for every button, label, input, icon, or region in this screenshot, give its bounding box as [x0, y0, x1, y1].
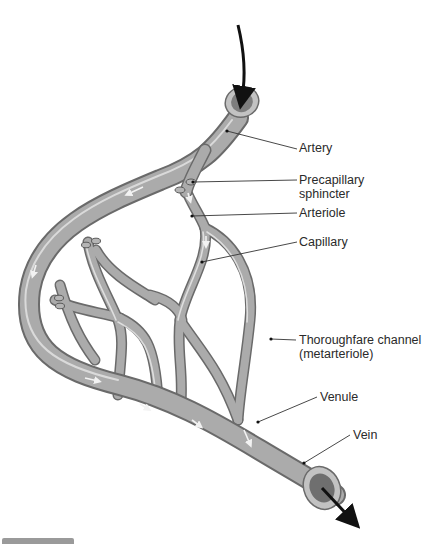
label-precapillary-line1: Precapillary: [299, 173, 364, 187]
label-arteriole: Arteriole: [299, 206, 346, 220]
label-venule: Venule: [320, 390, 358, 404]
label-artery: Artery: [299, 141, 332, 155]
label-thoroughfare-line2: (metarteriole): [299, 347, 421, 361]
figure-label-tab: [2, 538, 74, 544]
label-precapillary-line2: sphincter: [299, 187, 364, 201]
label-vein: Vein: [353, 428, 377, 442]
label-thoroughfare-channel: Thoroughfare channel (metarteriole): [299, 333, 421, 361]
label-thoroughfare-line1: Thoroughfare channel: [299, 333, 421, 347]
label-capillary: Capillary: [299, 235, 348, 249]
label-precapillary-sphincter: Precapillary sphincter: [299, 173, 364, 201]
